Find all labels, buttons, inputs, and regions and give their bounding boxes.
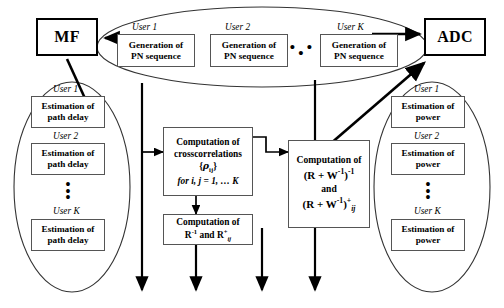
pathdelay-line1-userK: Estimation of bbox=[42, 224, 95, 235]
power-group-ellipsis: ••• bbox=[423, 182, 433, 202]
matrix-r2-sub: ij bbox=[227, 235, 231, 242]
matrix-r2-sup: + bbox=[224, 228, 228, 235]
rw-inverse-block[interactable]: Computation of (R + W-1)-1 and (R + W-1)… bbox=[288, 140, 370, 228]
rw-and: and bbox=[321, 183, 336, 196]
pathdelay-user2-label: User 2 bbox=[53, 131, 78, 141]
pn-box-line1-user1: Generation of bbox=[129, 40, 183, 51]
pathdelay-user1-label: User 1 bbox=[53, 84, 78, 94]
rw2-matrix-r: R bbox=[306, 197, 314, 209]
pathdelay-line2-user2: path delay bbox=[47, 159, 88, 170]
pn-box-line2-user1: PN sequence bbox=[131, 51, 181, 62]
pathdelay-line2-userK: path delay bbox=[47, 235, 88, 246]
adc-label: ADC bbox=[437, 28, 473, 46]
pathdelay-line1-user2: Estimation of bbox=[42, 148, 95, 159]
path-delay-box-user1[interactable]: Estimation of path delay bbox=[31, 96, 105, 128]
rw-outer-sup: -1 bbox=[348, 167, 354, 176]
mf-block[interactable]: MF bbox=[36, 18, 98, 56]
power-line1-userK: Estimation of bbox=[402, 224, 455, 235]
crosscorrelation-block[interactable]: Computation of crosscorrelations {ρij} f… bbox=[163, 127, 253, 196]
crosscorr-line1: Computation of bbox=[176, 136, 239, 148]
pn-generation-box-user1[interactable]: Generation of PN sequence bbox=[117, 34, 195, 67]
power-line2-user2: power bbox=[416, 159, 441, 170]
rw-w-sup: -1 bbox=[338, 167, 344, 176]
crosscorr-line3: {ρij} bbox=[199, 160, 217, 174]
matrixinv-and: and bbox=[199, 230, 214, 240]
pn-box-line1-userK: Generation of bbox=[332, 40, 386, 51]
pn-userK-label: User K bbox=[337, 22, 364, 32]
rw2-matrix-w: W bbox=[326, 197, 337, 209]
rw-matrix-w: W bbox=[327, 169, 338, 181]
matrixinv-line2: R-1 and R+ij bbox=[185, 228, 231, 244]
power-line2-user1: power bbox=[416, 112, 441, 123]
rw-matrix-r: R bbox=[307, 169, 315, 181]
power-userK-label: User K bbox=[414, 206, 441, 216]
diagram-canvas: MF ADC User 1 Generation of PN sequence … bbox=[0, 0, 504, 308]
rw-line4: (R + W-1)+ij bbox=[303, 196, 356, 214]
mf-label: MF bbox=[54, 28, 79, 46]
matrixinv-line1: Computation of bbox=[176, 216, 239, 228]
power-line1-user2: Estimation of bbox=[402, 148, 455, 159]
path-delay-box-user2[interactable]: Estimation of path delay bbox=[31, 143, 105, 175]
matrix-r2-symbol: R bbox=[217, 230, 224, 240]
path-delay-box-userK[interactable]: Estimation of path delay bbox=[31, 219, 105, 251]
rw2-outer-sub: ij bbox=[351, 203, 355, 212]
matrix-r-symbol: R bbox=[185, 230, 192, 240]
power-box-user1[interactable]: Estimation of power bbox=[391, 96, 465, 128]
power-box-userK[interactable]: Estimation of power bbox=[391, 219, 465, 251]
rho-subscript: ij bbox=[209, 166, 213, 173]
pn-generation-box-userK[interactable]: Generation of PN sequence bbox=[320, 34, 398, 67]
crosscorr-to-rw-path bbox=[253, 137, 288, 152]
power-line1-user1: Estimation of bbox=[402, 101, 455, 112]
pn-generation-box-user2[interactable]: Generation of PN sequence bbox=[210, 34, 288, 67]
rw-line1: Computation of bbox=[297, 154, 362, 167]
pathdelay-userK-label: User K bbox=[53, 206, 80, 216]
adc-block[interactable]: ADC bbox=[424, 18, 486, 56]
matrix-r-sup: -1 bbox=[192, 228, 197, 235]
rw2-w-sup: -1 bbox=[337, 196, 343, 205]
power-user1-label: User 1 bbox=[414, 84, 439, 94]
pn-box-line1-user2: Generation of bbox=[222, 40, 276, 51]
pathdelay-line2-user1: path delay bbox=[47, 112, 88, 123]
matrix-inverse-block[interactable]: Computation of R-1 and R+ij bbox=[163, 214, 253, 245]
crosscorr-line4: for i, j = 1, … K bbox=[177, 175, 238, 187]
pn-user1-label: User 1 bbox=[132, 22, 157, 32]
power-box-user2[interactable]: Estimation of power bbox=[391, 143, 465, 175]
power-line2-userK: power bbox=[416, 235, 441, 246]
pathdelay-line1-user1: Estimation of bbox=[42, 101, 95, 112]
pn-box-line2-userK: PN sequence bbox=[334, 51, 384, 62]
rw-line2: (R + W-1)-1 bbox=[304, 167, 355, 183]
pn-group-ellipsis: • • • bbox=[289, 44, 317, 56]
power-user2-label: User 2 bbox=[414, 131, 439, 141]
pn-box-line2-user2: PN sequence bbox=[224, 51, 274, 62]
crosscorr-line2: crosscorrelations bbox=[174, 148, 242, 160]
path-delay-group-ellipsis: ••• bbox=[63, 182, 73, 202]
pn-user2-label: User 2 bbox=[225, 22, 250, 32]
